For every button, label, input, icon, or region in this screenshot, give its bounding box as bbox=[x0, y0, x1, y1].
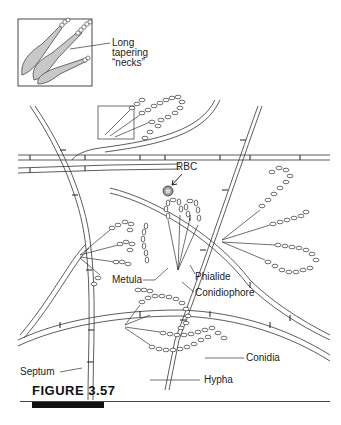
phialide-label: Phialide bbox=[195, 271, 231, 282]
caption-bar bbox=[32, 402, 104, 408]
metula-leader bbox=[143, 268, 168, 280]
hypha-label: Hypha bbox=[204, 374, 233, 385]
figure-caption: FIGURE 3.57 bbox=[32, 383, 116, 398]
figure-diagram: Long tapering “necks” bbox=[0, 0, 341, 425]
necks-label-3: “necks” bbox=[112, 57, 145, 68]
septum-leader bbox=[60, 368, 82, 372]
conidia-label: Conidia bbox=[246, 352, 280, 363]
rbc-cell bbox=[163, 174, 182, 196]
septum-label: Septum bbox=[20, 366, 54, 377]
metula-label: Metula bbox=[112, 274, 142, 285]
rbc-label: RBC bbox=[176, 161, 197, 172]
conidiophore-label: Conidiophore bbox=[195, 287, 255, 298]
conidiophore-leader bbox=[182, 282, 194, 292]
inset-box bbox=[18, 18, 92, 86]
